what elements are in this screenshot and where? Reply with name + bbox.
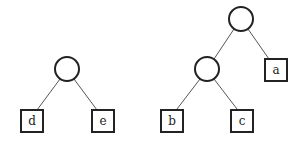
leaf-node-b: b	[161, 110, 183, 132]
edge-internal-to-c	[214, 79, 237, 109]
leaf-node-c: c	[231, 110, 253, 132]
edge-left-root-to-d	[37, 79, 60, 110]
tree-diagram: d e a b c	[0, 0, 303, 146]
leaf-node-a: a	[265, 59, 287, 81]
leaf-label-e: e	[99, 114, 106, 128]
edge-right-root-to-internal	[214, 29, 234, 59]
edge-left-root-to-e	[74, 79, 97, 110]
left-tree-root-node	[55, 57, 79, 81]
right-tree-internal-node	[195, 57, 219, 81]
edge-internal-to-b	[177, 79, 200, 109]
leaf-label-c: c	[239, 114, 246, 128]
leaf-label-d: d	[28, 114, 36, 128]
leaf-node-d: d	[21, 110, 43, 132]
right-tree-root-node	[229, 7, 253, 31]
leaf-label-a: a	[272, 63, 279, 77]
edge-right-root-to-a	[248, 29, 269, 59]
leaf-label-b: b	[168, 114, 176, 128]
leaf-node-e: e	[92, 110, 114, 132]
